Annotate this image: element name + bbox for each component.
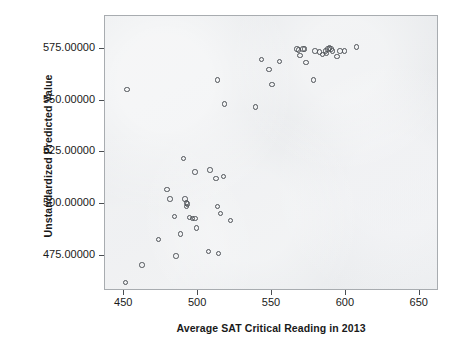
y-axis-tick bbox=[99, 203, 104, 204]
y-axis-tick-label: 500.00000 bbox=[5, 196, 95, 208]
plot-background-texture bbox=[105, 16, 437, 289]
y-axis-tick bbox=[99, 151, 104, 152]
data-point bbox=[123, 280, 128, 285]
data-point bbox=[194, 225, 199, 230]
data-point bbox=[139, 262, 144, 267]
data-point bbox=[216, 251, 221, 256]
data-point bbox=[167, 196, 172, 201]
x-axis-tick-label: 450 bbox=[93, 296, 153, 308]
scatter-plot-figure: Unstandardized Predicted Value 450500550… bbox=[0, 0, 457, 350]
data-point bbox=[221, 174, 226, 179]
plot-area bbox=[104, 15, 438, 290]
data-point bbox=[185, 201, 190, 206]
data-point bbox=[206, 249, 211, 254]
data-point bbox=[215, 204, 220, 209]
x-axis-tick-label: 650 bbox=[389, 296, 449, 308]
data-point bbox=[330, 48, 335, 53]
data-point bbox=[334, 54, 339, 59]
y-axis-tick-label: 575.00000 bbox=[5, 41, 95, 53]
y-axis-tick-label: 550.00000 bbox=[5, 93, 95, 105]
x-axis-tick-label: 600 bbox=[315, 296, 375, 308]
x-axis-tick bbox=[419, 290, 420, 295]
data-point bbox=[297, 53, 302, 58]
x-axis-tick bbox=[345, 290, 346, 295]
data-point bbox=[192, 216, 197, 221]
x-axis-tick-label: 500 bbox=[167, 296, 227, 308]
data-point bbox=[218, 211, 223, 216]
data-point bbox=[266, 67, 271, 72]
data-point bbox=[192, 169, 197, 174]
data-point bbox=[124, 87, 129, 92]
data-point bbox=[181, 156, 186, 161]
data-point bbox=[269, 82, 274, 87]
data-point bbox=[354, 44, 359, 49]
x-axis-tick-label: 550 bbox=[241, 296, 301, 308]
data-point bbox=[207, 167, 212, 172]
data-point bbox=[303, 60, 308, 65]
x-axis-tick bbox=[271, 290, 272, 295]
data-point bbox=[173, 253, 178, 258]
data-point bbox=[164, 187, 169, 192]
data-point bbox=[228, 218, 233, 223]
data-point bbox=[215, 77, 220, 82]
data-point bbox=[222, 101, 227, 106]
x-axis-tick bbox=[197, 290, 198, 295]
data-point bbox=[253, 104, 258, 109]
y-axis-tick bbox=[99, 100, 104, 101]
data-point bbox=[277, 59, 282, 64]
data-point bbox=[213, 176, 218, 181]
x-axis-title: Average SAT Critical Reading in 2013 bbox=[104, 322, 438, 334]
data-point bbox=[302, 46, 307, 51]
x-axis-tick bbox=[123, 290, 124, 295]
y-axis-tick bbox=[99, 255, 104, 256]
y-axis-tick-label: 525.00000 bbox=[5, 144, 95, 156]
data-point bbox=[311, 77, 316, 82]
data-point bbox=[178, 231, 183, 236]
data-point bbox=[342, 48, 347, 53]
data-point bbox=[172, 214, 177, 219]
y-axis-tick-label: 475.00000 bbox=[5, 248, 95, 260]
data-point bbox=[156, 237, 161, 242]
y-axis-tick bbox=[99, 48, 104, 49]
data-point bbox=[259, 57, 264, 62]
